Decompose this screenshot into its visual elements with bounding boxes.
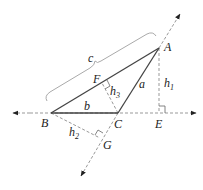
- line-ca-extended-down: [81, 113, 118, 176]
- label-side-a: a: [139, 77, 145, 91]
- right-angle-g: [95, 130, 103, 135]
- label-a-point: A: [163, 40, 172, 54]
- triangle-diagram: A B C E F G a b c h1 h2 h3: [0, 0, 203, 190]
- label-side-b: b: [84, 99, 90, 113]
- label-b-point: B: [41, 116, 49, 130]
- label-side-c: c: [88, 51, 94, 65]
- label-f-point: F: [92, 72, 101, 86]
- label-c-point: C: [114, 117, 123, 131]
- label-h2: h2: [69, 125, 79, 141]
- label-h3: h3: [110, 84, 120, 100]
- right-angle-e: [159, 106, 165, 113]
- label-e-point: E: [154, 117, 163, 131]
- label-h1: h1: [164, 76, 174, 92]
- label-g-point: G: [103, 138, 112, 152]
